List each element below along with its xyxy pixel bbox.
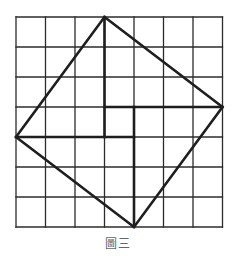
inner-pinwheel-segments	[16, 17, 223, 227]
grid-lines	[16, 17, 223, 227]
pinwheel-square-diagram	[0, 0, 235, 258]
figure-caption: 圖三	[0, 234, 235, 251]
tilted-square	[16, 17, 223, 227]
